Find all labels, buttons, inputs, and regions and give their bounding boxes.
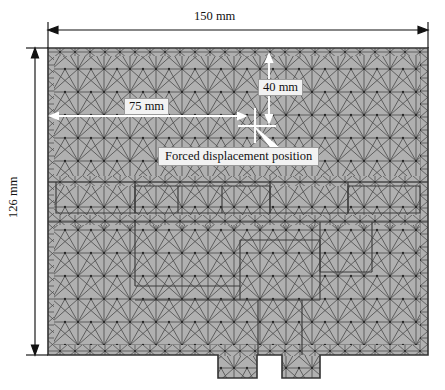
finite-element-mesh — [0, 0, 445, 390]
figure-canvas: 150 mm 126 mm 75 mm 40 mm Forced displac… — [0, 0, 445, 390]
forced-displacement-callout-label: Forced displacement position — [158, 147, 319, 166]
height-dimension-arrow — [31, 48, 38, 355]
width-dimension-label: 150 mm — [190, 9, 239, 24]
x-offset-dimension-label: 75 mm — [124, 98, 169, 115]
mesh-body — [40, 40, 440, 385]
width-dimension-arrow — [48, 26, 428, 33]
y-offset-dimension-label: 40 mm — [258, 79, 303, 96]
height-dimension-label: 126 mm — [6, 173, 21, 222]
